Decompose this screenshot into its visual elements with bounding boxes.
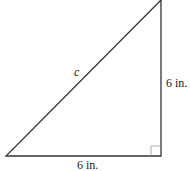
triangle-shape: [6, 0, 161, 156]
right-triangle-diagram: c 6 in. 6 in.: [0, 0, 190, 171]
height-label: 6 in.: [166, 76, 187, 90]
right-angle-marker: [151, 146, 161, 156]
hypotenuse-label: c: [74, 65, 80, 79]
base-label: 6 in.: [77, 158, 98, 171]
